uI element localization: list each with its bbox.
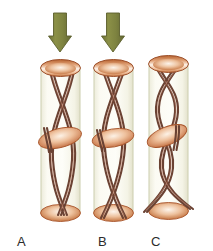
panel-label-a: A bbox=[17, 234, 26, 249]
top-cap-inner-b bbox=[98, 63, 129, 75]
bottom-cap-b bbox=[94, 205, 134, 222]
top-cap-inner-a bbox=[45, 63, 76, 75]
panel-label-c: C bbox=[151, 234, 160, 249]
panel-c: C bbox=[144, 56, 193, 250]
arrow-panel-a bbox=[49, 13, 72, 52]
arrow-down-icon bbox=[102, 13, 125, 52]
panel-label-b: B bbox=[98, 234, 107, 249]
top-cap-inner-c bbox=[153, 59, 184, 71]
arrow-panel-b bbox=[102, 13, 125, 52]
arrow-group bbox=[49, 13, 125, 52]
diagram-canvas: A B bbox=[0, 0, 213, 251]
figure-root: A B bbox=[0, 0, 213, 251]
arrow-down-icon bbox=[49, 13, 72, 52]
panel-a: A bbox=[17, 60, 84, 250]
panel-b: B bbox=[91, 60, 135, 250]
